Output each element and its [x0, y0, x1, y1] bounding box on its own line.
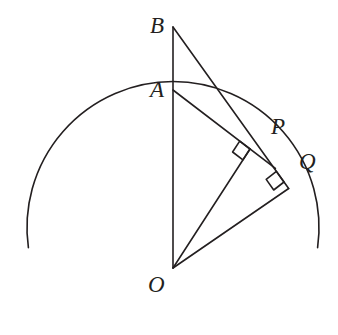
geometry-canvas — [0, 0, 338, 335]
segment-OQ — [173, 189, 289, 268]
geometry-figure: B A O P Q — [0, 0, 338, 335]
segment-AP — [173, 90, 275, 168]
point-label-A: A — [150, 78, 164, 101]
segment-OP — [173, 149, 250, 268]
point-label-Q: Q — [299, 150, 316, 173]
right-angle-at-P — [233, 141, 250, 160]
right-angle-at-Q — [266, 171, 284, 190]
point-label-P: P — [271, 115, 285, 138]
segment-BQ — [173, 27, 289, 189]
point-label-B: B — [150, 14, 164, 37]
point-label-O: O — [148, 273, 165, 296]
